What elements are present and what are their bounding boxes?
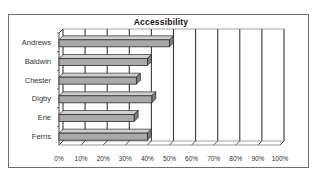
x-tick-label: 70%	[207, 155, 220, 162]
bar-andrews	[59, 40, 170, 47]
x-tick-label: 90%	[251, 155, 264, 162]
x-tick-label: 30%	[119, 155, 132, 162]
category-label: Baldwin	[25, 57, 51, 66]
floor-line	[280, 141, 284, 145]
category-label: Andrews	[22, 38, 51, 47]
bar-ferris	[59, 133, 147, 140]
x-tick-label: 0%	[54, 155, 64, 162]
floor-line	[59, 141, 63, 145]
x-tick-label: 100%	[272, 155, 289, 162]
bar-top-face	[59, 111, 138, 115]
floor-line	[258, 141, 262, 145]
x-tick-label: 50%	[163, 155, 176, 162]
category-label: Chester	[25, 76, 52, 85]
x-tick-label: 20%	[97, 155, 110, 162]
x-tick-label: 40%	[141, 155, 154, 162]
floor-line	[236, 141, 240, 145]
bar-top-face	[59, 73, 140, 77]
floor-line	[170, 141, 174, 145]
category-label: Digby	[32, 94, 51, 103]
x-tick-label: 60%	[185, 155, 198, 162]
floor-line	[125, 141, 129, 145]
x-tick-label: 80%	[229, 155, 242, 162]
x-tick-label: 10%	[75, 155, 88, 162]
floor-line	[214, 141, 218, 145]
bar-baldwin	[59, 59, 147, 66]
bar-chart: 0%10%20%30%40%50%60%70%80%90%100%Andrews…	[0, 0, 322, 179]
bar-digby	[59, 96, 152, 103]
bar-top-face	[59, 92, 156, 96]
floor-line	[192, 141, 196, 145]
bar-erie	[59, 115, 134, 122]
bar-top-face	[59, 36, 174, 40]
bar-chester	[59, 77, 136, 84]
category-label: Erie	[38, 113, 51, 122]
bar-top-face	[59, 129, 151, 133]
wall-corner	[59, 29, 63, 33]
bar-top-face	[59, 55, 151, 59]
floor-line	[103, 141, 107, 145]
category-label: Ferris	[32, 132, 51, 141]
floor-line	[147, 141, 151, 145]
floor-line	[81, 141, 85, 145]
